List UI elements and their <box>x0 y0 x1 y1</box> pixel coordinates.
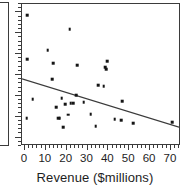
y-axis-minor-tick <box>18 57 21 58</box>
y-axis-major-tick <box>15 53 21 54</box>
scatter-point <box>103 85 106 88</box>
y-axis-minor-tick <box>18 61 21 62</box>
y-axis-minor-tick <box>18 70 21 71</box>
y-axis-minor-tick <box>18 78 21 79</box>
y-axis-major-tick <box>15 32 21 33</box>
x-axis-minor-tick <box>124 145 125 148</box>
scatter-point <box>68 28 71 31</box>
x-axis-major-tick <box>66 145 67 150</box>
scatter-point <box>32 98 35 101</box>
y-axis-minor-tick <box>18 20 21 21</box>
y-axis-minor-tick <box>18 82 21 83</box>
x-axis-major-tick <box>128 145 129 150</box>
y-axis-minor-tick <box>18 45 21 46</box>
x-axis-tick-label: 20 <box>59 152 72 165</box>
x-axis-minor-tick <box>145 145 146 148</box>
x-axis-minor-tick <box>132 145 133 148</box>
y-axis-major-tick <box>15 74 21 75</box>
scatter-point <box>55 106 58 109</box>
y-axis-major-tick <box>15 11 21 12</box>
x-axis-minor-tick <box>70 145 71 148</box>
y-axis-minor-tick <box>18 91 21 92</box>
x-axis-tick-labels: 010203040506070 <box>0 152 190 167</box>
scatter-point <box>72 102 75 105</box>
x-axis-tick-label: 0 <box>21 152 27 165</box>
y-axis-major-tick <box>15 95 21 96</box>
scatter-point <box>82 101 85 104</box>
scatter-point <box>26 14 29 17</box>
x-axis-minor-tick <box>174 145 175 148</box>
scatter-point <box>105 68 108 71</box>
x-axis-minor-tick <box>112 145 113 148</box>
scatter-point <box>52 62 55 65</box>
plot-area <box>22 4 179 144</box>
x-axis-major-tick <box>24 145 25 150</box>
scatter-point <box>89 113 92 116</box>
x-axis-tick-label: 50 <box>122 152 135 165</box>
y-axis-ticks <box>14 3 21 145</box>
x-axis-major-tick <box>107 145 108 150</box>
scatter-point <box>26 58 29 61</box>
x-axis-minor-tick <box>28 145 29 148</box>
scatter-point <box>51 78 54 81</box>
scatter-plot-figure: 010203040506070 Revenue ($millions) <box>0 0 190 194</box>
y-axis-minor-tick <box>18 66 21 67</box>
x-axis-minor-tick <box>162 145 163 148</box>
x-axis-minor-tick <box>116 145 117 148</box>
y-axis-minor-tick <box>18 49 21 50</box>
adjacent-panel-right-edge <box>8 2 9 146</box>
x-axis-minor-tick <box>166 145 167 148</box>
scatter-point <box>132 122 135 125</box>
scatter-point <box>76 64 79 67</box>
y-axis-minor-tick <box>18 7 21 8</box>
scatter-point <box>113 118 116 121</box>
x-axis-major-tick <box>45 145 46 150</box>
y-axis-minor-tick <box>18 28 21 29</box>
x-axis-tick-label: 60 <box>143 152 156 165</box>
y-axis-major-tick <box>15 116 21 117</box>
y-axis-minor-tick <box>18 112 21 113</box>
x-axis-minor-tick <box>141 145 142 148</box>
y-axis-minor-tick <box>18 41 21 42</box>
x-axis-tick-label: 10 <box>38 152 51 165</box>
x-axis-minor-tick <box>53 145 54 148</box>
x-axis-minor-tick <box>178 145 179 148</box>
x-axis-minor-tick <box>61 145 62 148</box>
x-axis-minor-tick <box>120 145 121 148</box>
scatter-point <box>64 103 67 106</box>
x-axis-minor-tick <box>91 145 92 148</box>
y-axis-minor-tick <box>18 3 21 4</box>
x-axis-minor-tick <box>137 145 138 148</box>
scatter-point <box>58 117 61 120</box>
scatter-point <box>95 125 98 128</box>
x-axis-minor-tick <box>32 145 33 148</box>
adjacent-panel-bottom-edge <box>0 145 9 146</box>
x-axis-minor-tick <box>57 145 58 148</box>
scatter-point <box>120 119 123 122</box>
x-axis-minor-tick <box>74 145 75 148</box>
x-axis-minor-tick <box>49 145 50 148</box>
x-axis-major-tick <box>170 145 171 150</box>
scatter-point <box>25 117 28 120</box>
y-axis-minor-tick <box>18 103 21 104</box>
x-axis-minor-tick <box>103 145 104 148</box>
x-axis-ticks <box>21 145 180 152</box>
scatter-point <box>62 126 65 129</box>
x-axis-tick-label: 30 <box>80 152 93 165</box>
y-axis-minor-tick <box>18 24 21 25</box>
y-axis-major-tick <box>15 137 21 138</box>
x-axis-minor-tick <box>157 145 158 148</box>
scatter-point <box>47 49 50 52</box>
y-axis-minor-tick <box>18 128 21 129</box>
y-axis-minor-tick <box>18 16 21 17</box>
y-axis-minor-tick <box>18 107 21 108</box>
x-axis-minor-tick <box>95 145 96 148</box>
y-axis-minor-tick <box>18 120 21 121</box>
y-axis-minor-tick <box>18 87 21 88</box>
x-axis-major-tick <box>87 145 88 150</box>
y-axis-minor-tick <box>18 124 21 125</box>
x-axis-minor-tick <box>82 145 83 148</box>
scatter-point <box>75 94 78 97</box>
x-axis-tick-label: 40 <box>101 152 114 165</box>
y-axis-minor-tick <box>18 141 21 142</box>
